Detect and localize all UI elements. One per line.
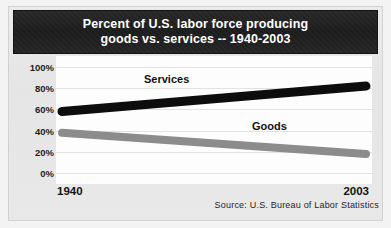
y-tick-20: 20% (13, 147, 54, 158)
plot-area: Services Goods (56, 56, 372, 184)
source-note: Source: U.S. Bureau of Labor Statistics (215, 200, 379, 210)
chart-title-banner: Percent of U.S. labor force producing go… (13, 10, 378, 54)
series-label-goods: Goods (252, 120, 287, 132)
y-axis: 100% 80% 60% 40% 20% 0% (13, 56, 56, 184)
y-tick-100: 100% (13, 62, 54, 73)
y-tick-60: 60% (13, 104, 54, 115)
series-line-services (62, 86, 366, 111)
chart-title-line-1: Percent of U.S. labor force producing (83, 17, 308, 32)
x-tick-start: 1940 (57, 185, 83, 197)
chart-title-line-2: goods vs. services -- 1940-2003 (100, 32, 290, 47)
series-lines (56, 56, 372, 184)
y-tick-80: 80% (13, 83, 54, 94)
series-line-goods (62, 133, 366, 154)
y-tick-0: 0% (13, 168, 54, 179)
plot-wrapper: 100% 80% 60% 40% 20% 0% Services Goods (13, 56, 378, 184)
y-tick-40: 40% (13, 126, 54, 137)
series-label-services: Services (144, 73, 189, 85)
x-tick-end: 2003 (343, 185, 369, 197)
chart-figure: Percent of U.S. labor force producing go… (0, 0, 391, 228)
